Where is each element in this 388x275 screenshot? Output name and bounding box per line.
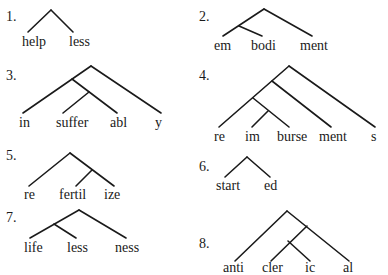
morpheme-label: im xyxy=(245,129,260,144)
tree-1: 1. help less xyxy=(6,9,90,49)
branch xyxy=(79,210,126,238)
tree-number: 4. xyxy=(199,68,210,83)
tree-3: 3. in suffer abl y xyxy=(6,66,162,130)
tree-4: 4. re im burse ment s xyxy=(199,66,376,144)
morpheme-label: suffer xyxy=(56,115,89,130)
morpheme-label: in xyxy=(19,115,30,130)
morpheme-label: em xyxy=(214,38,231,53)
tree-8: 8. anti cler ic al xyxy=(199,211,353,275)
tree-number: 5. xyxy=(6,148,17,163)
morpheme-label: ize xyxy=(104,187,120,202)
tree-2: 2. em bodi ment xyxy=(199,9,328,53)
morpheme-label: re xyxy=(214,129,225,144)
tree-number: 2. xyxy=(199,9,210,24)
branch xyxy=(239,26,262,36)
branch xyxy=(288,241,310,261)
tree-7: 7. life less ness xyxy=(6,210,139,255)
branch xyxy=(247,157,270,177)
branch xyxy=(54,224,76,238)
tree-number: 1. xyxy=(6,9,17,24)
tree-number: 7. xyxy=(6,210,17,225)
morpheme-label: fertil xyxy=(59,187,86,202)
morpheme-label: abl xyxy=(110,115,127,130)
branch xyxy=(76,170,92,186)
branch xyxy=(289,66,375,127)
branch xyxy=(72,79,117,113)
branch xyxy=(63,92,89,113)
branch xyxy=(264,9,312,36)
morpheme-label: start xyxy=(216,178,240,193)
morpheme-label: bodi xyxy=(251,38,276,53)
morpheme-label: ment xyxy=(319,129,347,144)
branch xyxy=(51,10,73,32)
morpheme-label: life xyxy=(24,240,43,255)
tree-6: 6. start ed xyxy=(199,157,277,193)
morpheme-label: cler xyxy=(262,260,283,275)
branch xyxy=(91,66,161,113)
branch xyxy=(29,153,70,186)
morpheme-label: ed xyxy=(264,178,277,193)
morpheme-label: al xyxy=(343,260,353,275)
branch xyxy=(225,157,247,177)
morpheme-label: ment xyxy=(300,38,328,53)
morpheme-label: y xyxy=(155,115,162,130)
branch xyxy=(253,98,289,127)
morpheme-label: re xyxy=(24,187,35,202)
morpheme-label: burse xyxy=(277,129,307,144)
tree-number: 8. xyxy=(199,236,210,251)
morpheme-label: less xyxy=(67,240,88,255)
branch xyxy=(28,10,51,32)
morpheme-label: ic xyxy=(305,260,315,275)
branch xyxy=(252,111,268,127)
morpheme-label: anti xyxy=(223,260,244,275)
morphology-tree-diagram: 1. help less 2. em bodi ment 3. in suffe… xyxy=(0,0,388,275)
tree-number: 6. xyxy=(199,159,210,174)
branch xyxy=(23,66,91,113)
morpheme-label: less xyxy=(69,34,90,49)
branch xyxy=(271,226,307,261)
morpheme-label: help xyxy=(22,34,46,49)
morpheme-label: ness xyxy=(115,240,139,255)
tree-number: 3. xyxy=(6,68,17,83)
tree-5: 5. re fertil ize xyxy=(6,148,120,202)
morpheme-label: s xyxy=(371,129,376,144)
branch xyxy=(223,9,264,36)
